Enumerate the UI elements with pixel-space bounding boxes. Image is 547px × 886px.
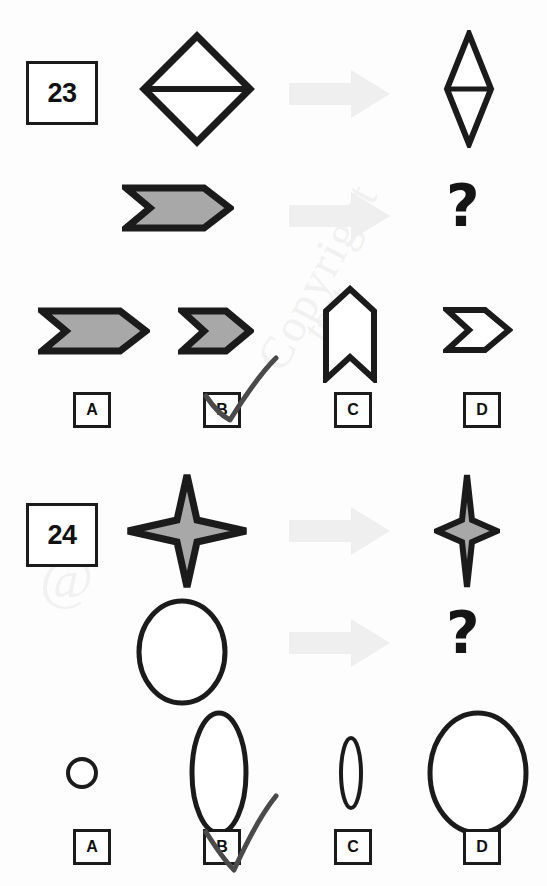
- option-shape-a[interactable]: [38, 307, 150, 355]
- transform-arrow-icon: [289, 617, 391, 669]
- option-letter-c[interactable]: C: [334, 829, 372, 865]
- option-shape-c[interactable]: [336, 735, 366, 811]
- option-letter-d[interactable]: D: [463, 829, 501, 865]
- shape-gray-four-point-star: [125, 472, 249, 590]
- shape-diamond-with-line: [138, 30, 256, 148]
- option-shape-a[interactable]: [64, 755, 100, 791]
- option-letter-a[interactable]: A: [73, 829, 111, 865]
- puzzle-number-23: 23: [26, 61, 98, 125]
- option-shape-c[interactable]: [322, 285, 378, 383]
- option-shape-d[interactable]: [424, 709, 532, 837]
- shape-tall-ellipse: [134, 597, 230, 707]
- transform-arrow-icon: [289, 190, 391, 242]
- shape-gray-chevron-wide: [122, 184, 234, 232]
- shape-narrow-gray-four-point-star: [434, 472, 500, 590]
- answer-placeholder-question-mark: ?: [446, 177, 480, 235]
- option-letter-c[interactable]: C: [334, 392, 372, 428]
- answer-placeholder-question-mark: ?: [446, 604, 480, 662]
- option-shape-b[interactable]: [178, 307, 254, 355]
- puzzle-number-24: 24: [26, 503, 98, 567]
- transform-arrow-icon: [289, 505, 391, 557]
- shape-narrow-diamond-with-line: [443, 30, 495, 148]
- option-letter-b[interactable]: B: [203, 392, 241, 428]
- option-letter-b[interactable]: B: [203, 829, 241, 865]
- option-letter-d[interactable]: D: [463, 392, 501, 428]
- option-shape-b[interactable]: [186, 709, 252, 837]
- option-letter-a[interactable]: A: [73, 392, 111, 428]
- transform-arrow-icon: [289, 68, 391, 120]
- option-shape-d[interactable]: [443, 305, 513, 355]
- test-page: Copyright @ test 23 ? A B C D: [0, 0, 547, 886]
